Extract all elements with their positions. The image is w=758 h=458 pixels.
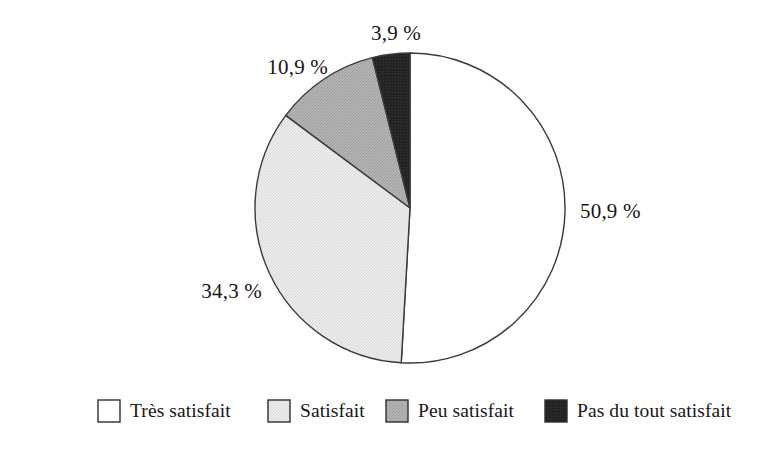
pie-value-label-pas-du-tout-satisfait: 3,9 % (371, 21, 421, 45)
legend-label-pas-du-tout-satisfait: Pas du tout satisfait (577, 400, 732, 421)
legend-swatch-pas-du-tout-satisfait (545, 400, 567, 422)
legend-swatch-satisfait (268, 400, 290, 422)
legend-swatch-tres-satisfait (98, 400, 120, 422)
legend-label-peu-satisfait: Peu satisfait (418, 400, 515, 421)
chart-legend: Très satisfait Satisfait Peu satisfait P… (98, 400, 732, 422)
legend-label-tres-satisfait: Très satisfait (130, 400, 231, 421)
legend-item-satisfait[interactable]: Satisfait (268, 400, 365, 422)
pie-value-label-tres-satisfait: 50,9 % (580, 199, 641, 223)
legend-swatch-peu-satisfait (386, 400, 408, 422)
pie-value-label-peu-satisfait: 10,9 % (267, 55, 328, 79)
pie-slices (255, 53, 565, 363)
pie-value-label-satisfait: 34,3 % (201, 279, 262, 303)
legend-item-peu-satisfait[interactable]: Peu satisfait (386, 400, 515, 422)
legend-label-satisfait: Satisfait (300, 400, 365, 421)
legend-item-pas-du-tout-satisfait[interactable]: Pas du tout satisfait (545, 400, 732, 422)
legend-item-tres-satisfait[interactable]: Très satisfait (98, 400, 231, 422)
pie-chart-figure: 50,9 % 34,3 % 10,9 % 3,9 % Très satisfai… (0, 0, 758, 458)
pie-slice-tres-satisfait[interactable] (401, 53, 565, 363)
pie-chart-svg: 50,9 % 34,3 % 10,9 % 3,9 % Très satisfai… (0, 0, 758, 458)
